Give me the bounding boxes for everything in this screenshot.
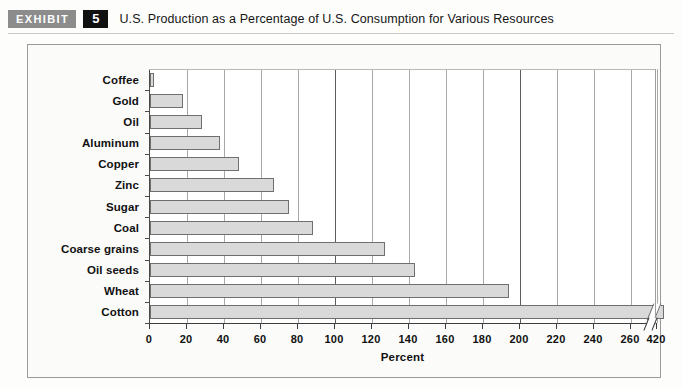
- category-label-sugar: Sugar: [106, 201, 139, 213]
- bar-coal: [150, 221, 313, 235]
- y-tick-7: [145, 238, 150, 239]
- x-tick-40: [223, 323, 224, 329]
- exhibit-number-badge: 5: [83, 10, 108, 28]
- x-tick-180: [482, 323, 483, 329]
- plot-area: [149, 69, 657, 323]
- x-tick-80: [297, 323, 298, 329]
- bar-sugar: [150, 200, 289, 214]
- x-tick-240: [593, 323, 594, 329]
- chart-panel: CoffeeGoldOilAluminumCopperZincSugarCoal…: [27, 44, 661, 378]
- x-tick-label-260: 260: [621, 333, 640, 345]
- plot-top-border: [149, 69, 656, 70]
- category-label-cotton: Cotton: [101, 306, 139, 318]
- y-tick-3: [145, 154, 150, 155]
- category-label-coarse-grains: Coarse grains: [61, 243, 139, 255]
- bar-oil: [150, 115, 202, 129]
- category-label-oil-seeds: Oil seeds: [87, 264, 139, 276]
- plot-right-border: [655, 69, 656, 323]
- x-tick-label-160: 160: [436, 333, 455, 345]
- x-tick-label-20: 20: [180, 333, 193, 345]
- x-tick-140: [408, 323, 409, 329]
- exhibit-title: U.S. Production as a Percentage of U.S. …: [119, 12, 553, 26]
- category-label-aluminum: Aluminum: [82, 137, 139, 149]
- y-tick-1: [145, 111, 150, 112]
- x-tick-label-120: 120: [362, 333, 381, 345]
- x-tick-120: [371, 323, 372, 329]
- category-label-wheat: Wheat: [104, 285, 139, 297]
- y-tick-10: [145, 302, 150, 303]
- x-tick-260: [630, 323, 631, 329]
- x-axis-break-glyph: [641, 317, 661, 331]
- x-tick-label-80: 80: [291, 333, 304, 345]
- category-label-gold: Gold: [112, 95, 139, 107]
- gridline-200: [520, 69, 521, 323]
- gridline-240: [594, 69, 595, 323]
- bar-coffee: [150, 73, 154, 87]
- gridline-260: [631, 69, 632, 323]
- x-axis-title: Percent: [149, 351, 656, 363]
- category-label-coal: Coal: [114, 222, 139, 234]
- bar-coarse-grains: [150, 242, 385, 256]
- category-label-coffee: Coffee: [103, 74, 139, 86]
- bar-gold: [150, 94, 183, 108]
- x-tick-label-40: 40: [217, 333, 230, 345]
- y-tick-8: [145, 260, 150, 261]
- x-tick-label-0: 0: [146, 333, 152, 345]
- x-tick-label-180: 180: [473, 333, 492, 345]
- x-tick-60: [260, 323, 261, 329]
- gridline-220: [557, 69, 558, 323]
- x-tick-label-240: 240: [584, 333, 603, 345]
- y-tick-2: [145, 133, 150, 134]
- category-label-copper: Copper: [98, 158, 139, 170]
- bar-aluminum: [150, 136, 220, 150]
- y-tick-6: [145, 217, 150, 218]
- x-tick-100: [334, 323, 335, 329]
- exhibit-tag-label: EXHIBIT: [8, 10, 76, 28]
- bar-wheat: [150, 284, 509, 298]
- x-tick-label-220: 220: [547, 333, 566, 345]
- bar-oil-seeds: [150, 263, 415, 277]
- y-tick-5: [145, 196, 150, 197]
- x-tick-label-100: 100: [325, 333, 344, 345]
- header-divider: [8, 33, 674, 34]
- x-tick-220: [556, 323, 557, 329]
- category-label-column: CoffeeGoldOilAluminumCopperZincSugarCoal…: [28, 69, 145, 323]
- y-tick-9: [145, 281, 150, 282]
- x-tick-label-60: 60: [254, 333, 267, 345]
- x-tick-label-200: 200: [510, 333, 529, 345]
- x-tick-0: [149, 323, 150, 329]
- exhibit-figure-page: EXHIBIT 5 U.S. Production as a Percentag…: [0, 0, 683, 388]
- category-label-oil: Oil: [123, 116, 139, 128]
- bar-cotton: [150, 305, 664, 319]
- x-tick-20: [186, 323, 187, 329]
- y-tick-4: [145, 175, 150, 176]
- gridline-420: [657, 69, 658, 323]
- x-axis-line: [149, 323, 656, 324]
- x-tick-label-140: 140: [399, 333, 418, 345]
- exhibit-header: EXHIBIT 5 U.S. Production as a Percentag…: [0, 6, 683, 32]
- x-tick-160: [445, 323, 446, 329]
- bar-zinc: [150, 178, 274, 192]
- y-tick-0: [145, 90, 150, 91]
- x-tick-200: [519, 323, 520, 329]
- x-tick-label-420: 420: [647, 333, 666, 345]
- category-label-zinc: Zinc: [115, 179, 139, 191]
- bar-copper: [150, 157, 239, 171]
